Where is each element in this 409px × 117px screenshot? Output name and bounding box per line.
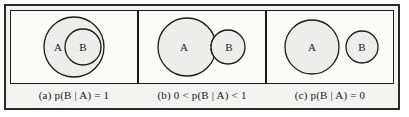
panel-c-venn: A B [267,11,393,83]
label-set-a: A [308,41,316,53]
panel-a-box: A B [10,10,138,84]
panel-b-box: A B [138,10,266,84]
panel-b-caption: (b) 0 < p(B | A) < 1 [157,88,246,102]
label-set-b: B [358,41,365,53]
panel-c: A B (c) p(B | A) = 0 [266,10,394,110]
panel-a-venn: A B [11,11,137,83]
label-set-b: B [225,41,232,53]
panel-a-caption: (a) p(B | A) = 1 [39,88,110,102]
label-set-b: B [79,41,86,53]
label-set-a: A [54,41,62,53]
panel-row: A B (a) p(B | A) = 1 A B (b) 0 < p(B | A… [4,4,400,110]
panel-c-caption: (c) p(B | A) = 0 [295,88,366,102]
label-set-a: A [180,41,188,53]
panel-c-box: A B [266,10,394,84]
panel-b-venn: A B [139,11,265,83]
venn-diagram-figure: A B (a) p(B | A) = 1 A B (b) 0 < p(B | A… [0,0,409,117]
panel-a: A B (a) p(B | A) = 1 [10,10,138,110]
panel-b: A B (b) 0 < p(B | A) < 1 [138,10,266,110]
